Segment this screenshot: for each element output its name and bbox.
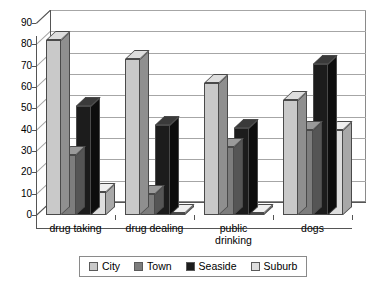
chart-legend: CityTownSeasideSuburb	[79, 256, 307, 277]
legend-item[interactable]: Seaside	[186, 261, 237, 272]
legend-label: Seaside	[199, 261, 237, 272]
x-axis-tick-mark	[115, 215, 116, 220]
y-axis-tick-label: 30	[6, 146, 32, 156]
x-axis-label-line: drug taking	[36, 222, 115, 234]
axis-depth-diagonal-top	[36, 10, 51, 24]
legend-item[interactable]: Town	[134, 261, 172, 272]
legend-label: Suburb	[264, 261, 298, 272]
x-axis-tick-mark	[352, 215, 353, 220]
bar-side-face	[76, 147, 85, 215]
bar-side-face	[249, 119, 258, 215]
x-axis-category-label: publicdrinking	[194, 222, 273, 246]
y-axis-tick-label: 10	[6, 189, 32, 199]
x-axis-tick-mark	[36, 215, 37, 220]
y-axis-tick-label: 60	[6, 82, 32, 92]
y-axis-tick-label: 90	[6, 18, 32, 28]
x-axis-label-line: drinking	[194, 234, 273, 246]
gridline	[50, 10, 366, 11]
bar	[283, 100, 298, 215]
y-axis-tick-label: 0	[6, 210, 32, 220]
y-axis-front-line	[36, 36, 37, 228]
y-axis-tick-label: 80	[6, 39, 32, 49]
x-axis-tick-mark	[194, 215, 195, 220]
legend-item[interactable]: City	[89, 261, 120, 272]
x-axis-category-label: drug taking	[36, 222, 115, 234]
plot-area: 0102030405060708090	[36, 10, 366, 215]
legend-swatch-icon	[186, 262, 195, 271]
bar-front-face	[125, 59, 140, 215]
legend-label: City	[102, 261, 120, 272]
y-axis-tick-label: 20	[6, 167, 32, 177]
bar-front-face	[170, 213, 185, 215]
legend-item[interactable]: Suburb	[251, 261, 298, 272]
bar	[204, 83, 219, 215]
bar	[125, 59, 140, 215]
y-axis-tick-label: 70	[6, 61, 32, 71]
legend-swatch-icon	[251, 262, 260, 271]
x-axis-label-line: public	[194, 222, 273, 234]
legend-swatch-icon	[134, 262, 143, 271]
x-axis-label-line: dogs	[273, 222, 352, 234]
bar	[46, 40, 61, 215]
value-box	[36, 23, 352, 215]
x-axis-tick-mark	[273, 215, 274, 220]
legend-label: Town	[147, 261, 172, 272]
bar	[170, 213, 185, 215]
bar-side-face	[343, 121, 352, 215]
bar-side-face	[91, 98, 100, 215]
y-axis-tick-label: 40	[6, 125, 32, 135]
x-axis-category-label: dogs	[273, 222, 352, 234]
bar-side-face	[140, 51, 149, 215]
bar-front-face	[204, 83, 219, 215]
bar-chart: 0102030405060708090 drug takingdrug deal…	[0, 0, 379, 286]
bar-side-face	[298, 91, 307, 215]
legend-swatch-icon	[89, 262, 98, 271]
bar-side-face	[170, 117, 179, 215]
bar-side-face	[234, 138, 243, 215]
bar-side-face	[219, 74, 228, 215]
bar-front-face	[46, 40, 61, 215]
x-axis-label-line: drug dealing	[115, 222, 194, 234]
y-axis-tick-label: 50	[6, 103, 32, 113]
bar-side-face	[328, 55, 337, 215]
bar-side-face	[313, 121, 322, 215]
bar-side-face	[61, 32, 70, 215]
bar-front-face	[283, 100, 298, 215]
x-axis-category-label: drug dealing	[115, 222, 194, 234]
